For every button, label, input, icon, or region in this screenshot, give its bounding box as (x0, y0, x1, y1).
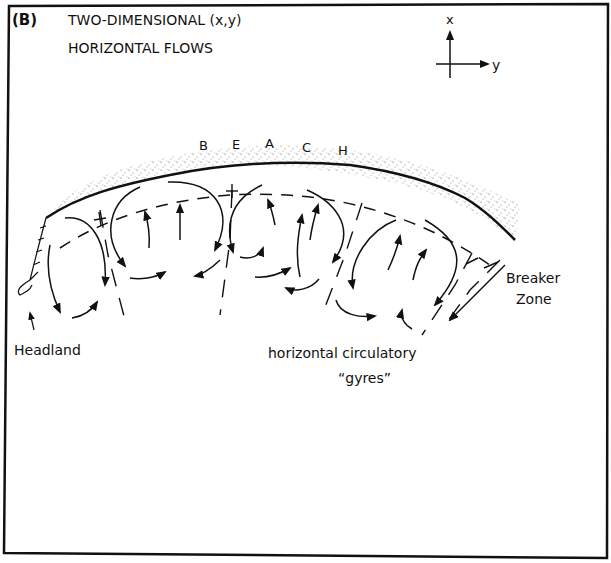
beach-sand (46, 146, 520, 240)
breaker-zone-label-line-2: Zone (516, 291, 552, 307)
title-line-2: HORIZONTAL FLOWS (68, 40, 213, 56)
svg-text:H: H (338, 143, 348, 158)
axes-icon (436, 32, 488, 78)
gyres-label-line-2: “gyres” (338, 370, 391, 386)
gyres-label-line-1: horizontal circulatory (268, 345, 416, 361)
cross-ticks (94, 184, 498, 268)
headland-label: Headland (14, 342, 81, 358)
svg-text:A: A (265, 136, 274, 151)
breaker-line (60, 194, 490, 265)
svg-text:B: B (199, 138, 208, 153)
rip-separators (100, 190, 500, 335)
headland-rocks (18, 218, 46, 295)
breaker-zone-label-line-1: Breaker (506, 270, 560, 286)
axis-x-label: x (446, 12, 454, 27)
svg-text:E: E (232, 137, 240, 152)
flow-arrows (48, 182, 505, 329)
title-line-1: TWO-DIMENSIONAL (x,y) (67, 12, 241, 28)
axis-y-label: y (492, 57, 500, 73)
headland-pointer-arrow (30, 313, 34, 330)
panel-label: (B) (12, 11, 37, 29)
svg-text:C: C (302, 140, 311, 155)
diagram-canvas: (B) TWO-DIMENSIONAL (x,y) HORIZONTAL FLO… (0, 0, 611, 563)
